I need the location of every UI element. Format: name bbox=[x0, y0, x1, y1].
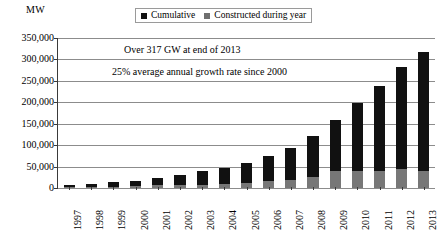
legend-label-cumulative: Cumulative bbox=[151, 11, 195, 21]
bar-group bbox=[64, 38, 75, 188]
bar-constructed bbox=[330, 171, 341, 188]
x-axis-tick-mark bbox=[380, 187, 381, 190]
x-axis-tick-label: 2007 bbox=[295, 210, 305, 230]
x-axis-tick-mark bbox=[158, 187, 159, 190]
bar-group bbox=[396, 38, 407, 188]
x-axis-tick-mark bbox=[247, 187, 248, 190]
x-axis-tick-label: 2009 bbox=[339, 210, 349, 230]
x-axis-tick-label: 2011 bbox=[384, 210, 394, 230]
chart-legend: Cumulative Constructed during year bbox=[135, 8, 312, 23]
y-axis-tick-mark bbox=[54, 188, 58, 189]
bar-group bbox=[130, 38, 141, 188]
x-axis-tick-label: 2010 bbox=[361, 210, 371, 230]
x-axis-tick-label: 2006 bbox=[273, 210, 283, 230]
bar-constructed bbox=[418, 171, 429, 188]
annotation-growth-rate: 25% average annual growth rate since 200… bbox=[108, 66, 291, 78]
x-axis-tick-label: 2003 bbox=[206, 210, 216, 230]
x-axis-tick-label: 2000 bbox=[140, 210, 150, 230]
x-axis-ticks: 1997199819992000200120022003200420052006… bbox=[58, 190, 435, 234]
bar-group bbox=[285, 38, 296, 188]
x-axis-tick-label: 2013 bbox=[428, 210, 438, 230]
y-axis-tick-label: 50,000 bbox=[0, 162, 54, 172]
y-axis-tick-label: 250,000 bbox=[0, 76, 54, 86]
x-axis-tick-label: 1997 bbox=[73, 210, 83, 230]
bar-group bbox=[418, 38, 429, 188]
bar-group bbox=[241, 38, 252, 188]
legend-item-constructed: Constructed during year bbox=[204, 11, 306, 21]
bar-constructed bbox=[374, 171, 385, 188]
x-axis-tick-label: 2001 bbox=[162, 210, 172, 230]
bar-cumulative bbox=[418, 52, 429, 188]
x-axis-tick-mark bbox=[357, 187, 358, 190]
bar-group bbox=[374, 38, 385, 188]
x-axis-tick-mark bbox=[69, 187, 70, 190]
legend-item-cumulative: Cumulative bbox=[141, 11, 195, 21]
y-axis-tick-label: 100,000 bbox=[0, 140, 54, 150]
legend-swatch-icon-constructed bbox=[204, 13, 210, 19]
bar-constructed bbox=[396, 169, 407, 188]
x-axis-tick-mark bbox=[313, 187, 314, 190]
x-axis-tick-mark bbox=[224, 187, 225, 190]
x-axis-tick-mark bbox=[202, 187, 203, 190]
x-axis-tick-mark bbox=[113, 187, 114, 190]
bar-series-group bbox=[58, 38, 435, 188]
bar-group bbox=[307, 38, 318, 188]
x-axis-tick-label: 2008 bbox=[317, 210, 327, 230]
bar-group bbox=[197, 38, 208, 188]
bar-group bbox=[330, 38, 341, 188]
y-axis-unit-label: MW bbox=[26, 4, 45, 15]
x-axis-tick-mark bbox=[180, 187, 181, 190]
x-axis-tick-label: 1998 bbox=[95, 210, 105, 230]
y-axis-tick-label: 0 bbox=[0, 183, 54, 193]
x-axis-tick-label: 2012 bbox=[406, 210, 416, 230]
x-axis-tick-mark bbox=[291, 187, 292, 190]
bar-constructed bbox=[352, 171, 363, 188]
x-axis-tick-mark bbox=[269, 187, 270, 190]
x-axis-tick-label: 2004 bbox=[228, 210, 238, 230]
x-axis-tick-mark bbox=[335, 187, 336, 190]
bar-group bbox=[174, 38, 185, 188]
x-axis-tick-label: 2005 bbox=[251, 210, 261, 230]
y-axis-tick-label: 200,000 bbox=[0, 97, 54, 107]
bar-group bbox=[152, 38, 163, 188]
bar-group bbox=[86, 38, 97, 188]
x-axis-tick-label: 1999 bbox=[117, 210, 127, 230]
legend-label-constructed: Constructed during year bbox=[214, 11, 306, 21]
bar-group bbox=[352, 38, 363, 188]
x-axis-tick-mark bbox=[136, 187, 137, 190]
annotation-total-capacity: Over 317 GW at end of 2013 bbox=[120, 44, 244, 56]
bar-group bbox=[108, 38, 119, 188]
bar-group bbox=[263, 38, 274, 188]
plot-area: 050,000100,000150,000200,000250,000300,0… bbox=[58, 38, 435, 188]
x-axis-tick-mark bbox=[91, 187, 92, 190]
x-axis-tick-mark bbox=[402, 187, 403, 190]
x-axis-tick-mark bbox=[424, 187, 425, 190]
legend-swatch-icon-cumulative bbox=[141, 13, 147, 19]
y-axis-tick-label: 150,000 bbox=[0, 119, 54, 129]
bar-group bbox=[219, 38, 230, 188]
y-axis-tick-label: 300,000 bbox=[0, 54, 54, 64]
x-axis-tick-label: 2002 bbox=[184, 210, 194, 230]
y-axis-tick-label: 350,000 bbox=[0, 33, 54, 43]
